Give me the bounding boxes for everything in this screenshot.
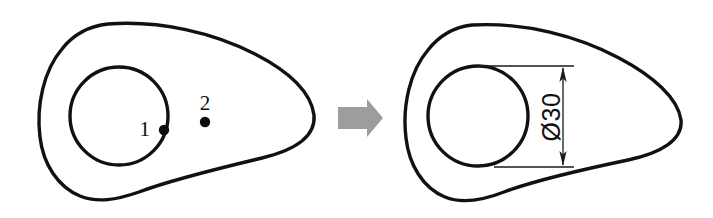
callout-2-label: 2	[200, 91, 211, 115]
diagram-canvas: 1 2 Ø30	[0, 0, 713, 218]
dimension-text: Ø30	[537, 93, 565, 142]
callout-2-group: 2	[200, 91, 211, 127]
left-view-group: 1 2	[39, 23, 314, 200]
left-inner-hole	[70, 67, 168, 165]
right-view-group: Ø30	[405, 25, 681, 201]
left-outer-contour	[39, 23, 314, 200]
technical-drawing-svg: 1 2 Ø30	[0, 0, 713, 218]
right-inner-hole	[428, 66, 528, 166]
callout-1-label: 1	[140, 117, 151, 141]
transform-arrow-icon	[338, 99, 383, 137]
transform-arrow-group	[338, 99, 383, 137]
callout-1-dot	[159, 125, 169, 135]
callout-2-dot	[200, 117, 210, 127]
